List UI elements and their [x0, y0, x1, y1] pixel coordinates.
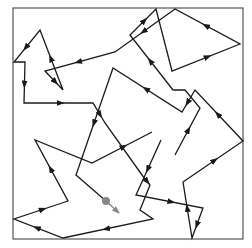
path-b [76, 68, 243, 238]
turtle [102, 197, 119, 213]
path-a [14, 9, 240, 238]
turtle-dot-icon [102, 197, 110, 205]
turtle-path-diagram [0, 0, 252, 248]
path-layer [14, 9, 243, 238]
